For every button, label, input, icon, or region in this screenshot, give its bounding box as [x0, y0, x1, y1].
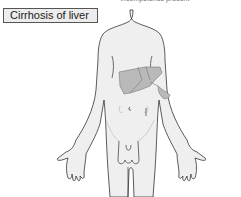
body-outline	[57, 10, 206, 197]
body-figure	[0, 0, 241, 197]
